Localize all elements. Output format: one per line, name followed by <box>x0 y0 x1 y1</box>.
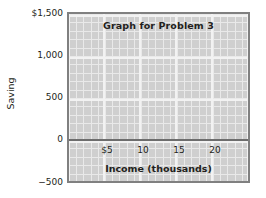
y-tick-label: 1,000 <box>1 50 63 60</box>
x-axis-title: Income (thousands) <box>69 163 248 174</box>
chart-figure: Graph for Problem 3 $5101520 Income (tho… <box>0 0 266 198</box>
y-tick-label: 0 <box>1 134 63 144</box>
x-tick-label: 10 <box>123 145 163 155</box>
y-tick-label: −500 <box>1 177 63 187</box>
zero-axis-line <box>69 139 248 141</box>
major-gridlines <box>69 14 248 181</box>
chart-title: Graph for Problem 3 <box>69 20 248 31</box>
x-tick-label: 20 <box>195 145 235 155</box>
y-tick-label: $1,500 <box>1 8 63 18</box>
y-axis-title: Saving <box>5 66 16 122</box>
plot-area: Graph for Problem 3 $5101520 Income (tho… <box>67 12 250 183</box>
x-tick-label: 15 <box>159 145 199 155</box>
x-tick-label: $5 <box>87 145 127 155</box>
